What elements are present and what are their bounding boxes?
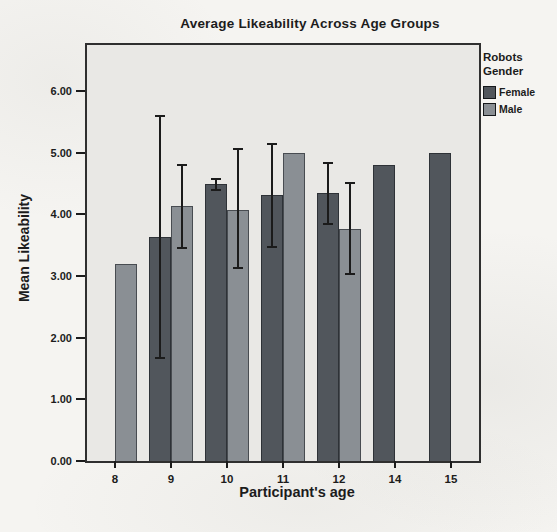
error-cap-bottom: [323, 223, 333, 225]
y-axis-label: Mean Likeability: [16, 194, 32, 302]
y-tick-label: 2.00: [32, 333, 72, 344]
y-tick-label: 1.00: [32, 394, 72, 405]
y-tick-mark: [76, 337, 85, 339]
y-tick-mark: [76, 460, 85, 462]
bar-male-age-11: [283, 153, 305, 461]
legend-entries: FemaleMale: [483, 86, 555, 116]
chart-title: Average Likeability Across Age Groups: [90, 16, 530, 31]
legend-entry-label: Male: [499, 103, 522, 115]
bar-male-age-8: [115, 264, 137, 461]
error-bar-female-age-12: [327, 163, 329, 224]
error-cap-bottom: [177, 247, 187, 249]
error-cap-bottom: [155, 357, 165, 359]
error-cap-top: [155, 115, 165, 117]
legend-entry-female: Female: [483, 86, 555, 99]
y-tick-label: 0.00: [32, 456, 72, 467]
x-tick-mark: [170, 461, 172, 468]
x-tick-mark: [450, 461, 452, 468]
y-tick-label: 4.00: [32, 209, 72, 220]
bar-female-age-10: [205, 184, 227, 461]
legend: Robots Gender FemaleMale: [483, 50, 555, 120]
y-tick-mark: [76, 398, 85, 400]
error-bar-male-age-12: [349, 183, 351, 274]
error-bar-female-age-9: [159, 116, 161, 358]
error-cap-top: [233, 148, 243, 150]
y-tick-label: 6.00: [32, 86, 72, 97]
error-cap-bottom: [211, 189, 221, 191]
plot-area: 0.001.002.003.004.005.006.00891011121415: [85, 43, 481, 463]
bar-female-age-15: [429, 153, 451, 461]
legend-entry-male: Male: [483, 103, 555, 116]
error-cap-top: [323, 162, 333, 164]
x-tick-mark: [394, 461, 396, 468]
x-tick-mark: [114, 461, 116, 468]
error-cap-bottom: [267, 246, 277, 248]
y-tick-mark: [76, 275, 85, 277]
error-cap-top: [345, 182, 355, 184]
y-tick-mark: [76, 90, 85, 92]
bar-female-age-14: [373, 165, 395, 461]
error-cap-top: [177, 164, 187, 166]
error-cap-top: [211, 178, 221, 180]
error-cap-top: [267, 143, 277, 145]
scanned-chart-page: Average Likeability Across Age Groups Me…: [0, 0, 557, 532]
x-tick-mark: [226, 461, 228, 468]
legend-swatch-male-icon: [483, 103, 496, 116]
error-bar-female-age-11: [271, 144, 273, 246]
bar-female-age-12: [317, 193, 339, 461]
error-bar-male-age-10: [237, 149, 239, 268]
error-cap-bottom: [345, 273, 355, 275]
error-bar-male-age-9: [181, 165, 183, 248]
legend-entry-label: Female: [499, 86, 535, 98]
y-tick-label: 5.00: [32, 148, 72, 159]
y-tick-label: 3.00: [32, 271, 72, 282]
error-cap-bottom: [233, 267, 243, 269]
legend-title: Robots Gender: [483, 50, 535, 79]
y-tick-mark: [76, 152, 85, 154]
legend-swatch-female-icon: [483, 86, 496, 99]
x-tick-mark: [338, 461, 340, 468]
x-axis-label: Participant's age: [90, 484, 504, 500]
x-tick-mark: [282, 461, 284, 468]
y-tick-mark: [76, 213, 85, 215]
